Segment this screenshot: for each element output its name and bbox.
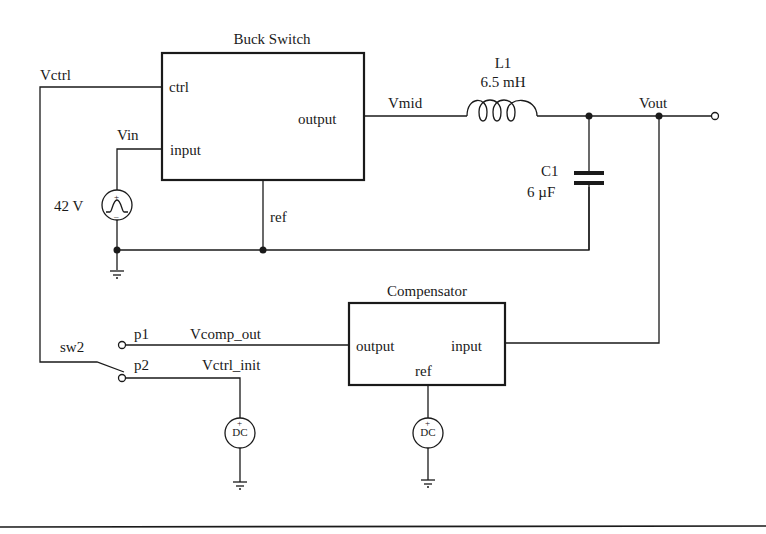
schematic-canvas: + – + +	[0, 0, 766, 534]
vin-source-value: 42 V	[54, 199, 83, 214]
ground-icon	[233, 482, 247, 489]
dc-source-2-label: DC	[420, 427, 435, 438]
inductor-value: 6.5 mH	[481, 75, 526, 90]
compensator-title: Compensator	[387, 284, 467, 299]
inductor-l1	[467, 100, 537, 121]
dc-source-1-label: DC	[232, 427, 247, 438]
comp-port-ref: ref	[415, 364, 432, 379]
vout-terminal[interactable]	[712, 113, 719, 120]
minus-sign: –	[113, 211, 119, 221]
net-vout: Vout	[639, 96, 667, 111]
bottom-rule	[0, 526, 766, 527]
port-output: output	[298, 112, 336, 127]
ground-icon	[110, 271, 124, 278]
capacitor-value: 6 µF	[527, 185, 555, 200]
port-input: input	[170, 143, 201, 158]
comp-port-input: input	[451, 339, 482, 354]
capacitor-name: C1	[541, 164, 559, 179]
switch-pole2: p2	[134, 358, 149, 373]
vin-wire	[117, 149, 162, 190]
net-vcomp-out: Vcomp_out	[190, 327, 261, 342]
net-vmid: Vmid	[388, 96, 422, 111]
ground-bus	[117, 187, 589, 250]
port-ref: ref	[270, 210, 287, 225]
plus-sign: +	[114, 192, 119, 202]
buck-switch-title: Buck Switch	[233, 32, 310, 47]
switch-pole1: p1	[134, 327, 149, 342]
net-vctrl-init: Vctrl_init	[202, 358, 260, 373]
comp-port-output: output	[356, 339, 394, 354]
switch-p1-contact[interactable]	[119, 342, 126, 349]
vctrl-init-wire	[126, 378, 240, 418]
switch-name: sw2	[60, 340, 84, 355]
port-ctrl: ctrl	[169, 80, 189, 95]
net-vin: Vin	[117, 128, 139, 143]
inductor-name: L1	[495, 56, 512, 71]
vout-feedback-wire	[505, 116, 659, 343]
switch-p2-contact[interactable]	[119, 375, 126, 382]
ground-icon	[421, 480, 435, 487]
net-vctrl: Vctrl	[40, 68, 71, 83]
